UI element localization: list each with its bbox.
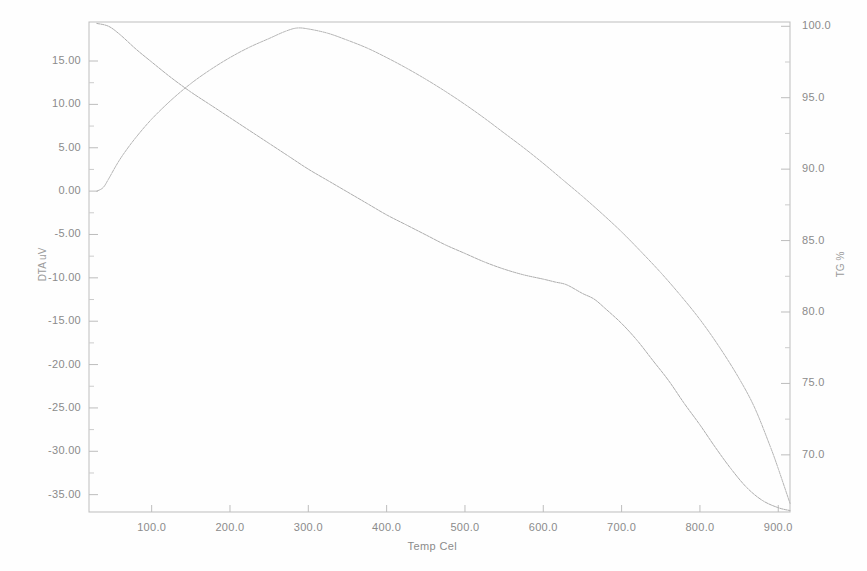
- y-right-tick-label: 100.0: [802, 19, 831, 31]
- y-right-tick-label: 85.0: [802, 234, 825, 246]
- data-series-group: [97, 23, 790, 510]
- y-left-tick-label: 15.00: [21, 54, 81, 66]
- x-axis-title: Temp Cel: [408, 540, 458, 552]
- y-left-tick-label: 0.00: [21, 184, 81, 196]
- y-axis-right-ticks: [781, 26, 790, 455]
- x-tick-label: 700.0: [598, 521, 646, 533]
- x-tick-label: 500.0: [441, 521, 489, 533]
- y-left-tick-label: 5.00: [21, 141, 81, 153]
- x-tick-label: 200.0: [206, 521, 254, 533]
- y-left-tick-label: -25.00: [21, 401, 81, 413]
- y-axis-left-title: DTA uV: [37, 248, 48, 282]
- plot-frame: [89, 22, 790, 512]
- x-tick-label: 800.0: [676, 521, 724, 533]
- y-right-tick-label: 70.0: [802, 448, 825, 460]
- chart-page: 100.0200.0300.0400.0500.0600.0700.0800.0…: [0, 0, 867, 571]
- tg-dta-plot: [0, 0, 867, 571]
- y-left-tick-label: -10.00: [21, 271, 81, 283]
- y-left-tick-label: 10.00: [21, 97, 81, 109]
- y-left-tick-label: -15.00: [21, 314, 81, 326]
- y-axis-right-title: TG %: [835, 252, 846, 278]
- y-right-tick-label: 80.0: [802, 305, 825, 317]
- y-left-tick-label: -35.00: [21, 488, 81, 500]
- x-tick-label: 600.0: [519, 521, 567, 533]
- x-tick-label: 100.0: [128, 521, 176, 533]
- y-left-tick-label: -30.00: [21, 444, 81, 456]
- y-right-tick-label: 90.0: [802, 162, 825, 174]
- x-axis-ticks: [152, 505, 779, 512]
- y-right-tick-label: 95.0: [802, 91, 825, 103]
- y-axis-left-ticks: [89, 61, 98, 495]
- y-left-tick-label: -20.00: [21, 358, 81, 370]
- x-tick-label: 900.0: [754, 521, 802, 533]
- x-tick-label: 400.0: [363, 521, 411, 533]
- y-right-tick-label: 75.0: [802, 376, 825, 388]
- series-line-tg: [97, 23, 790, 510]
- y-left-tick-label: -5.00: [21, 227, 81, 239]
- x-tick-label: 300.0: [284, 521, 332, 533]
